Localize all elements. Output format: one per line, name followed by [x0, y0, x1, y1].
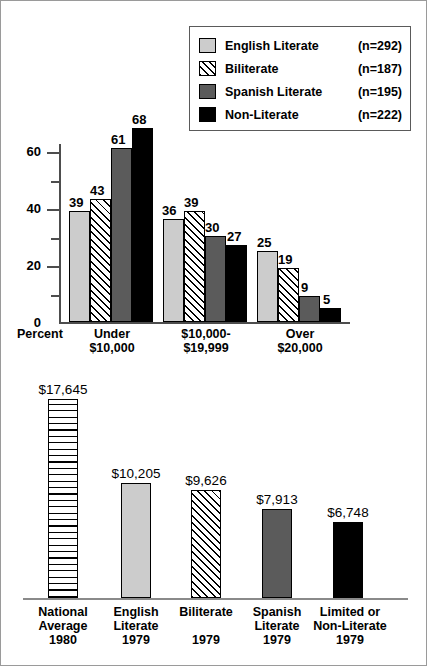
x-category-10000-19999: $10,000- $19,999	[164, 327, 248, 355]
x-category-limited-non-literate: Limited or Non-Literate 1979	[304, 605, 396, 647]
bar-over20k-spanish-literate	[299, 296, 320, 322]
bar-under10k-biliterate	[90, 199, 111, 322]
bar-value: 19	[278, 252, 292, 267]
bar-value: 36	[162, 203, 176, 218]
x-category-national-average: National Average 1980	[23, 605, 103, 647]
bar-over20k-biliterate	[278, 268, 299, 322]
bar-10k19999-biliterate	[184, 211, 205, 322]
top-plot-area: 39 43 61 68 36 39 30 27 25 19 9	[1, 1, 427, 341]
bar-value: $6,748	[308, 505, 388, 520]
bar-value: 39	[69, 195, 83, 210]
bar-10k19999-english-literate	[163, 219, 184, 322]
bar-10k19999-non-literate	[226, 245, 247, 322]
bar-value: 39	[184, 195, 198, 210]
x-category-under-10000: Under $10,000	[71, 327, 153, 355]
y-axis-title: Percent	[17, 327, 63, 341]
bar-value: 61	[111, 132, 125, 147]
bar-over20k-non-literate	[320, 308, 341, 322]
bar-value: 27	[227, 229, 241, 244]
bottom-baseline	[23, 598, 408, 600]
bar-value: 25	[257, 235, 271, 250]
x-category-biliterate: Biliterate 1979	[166, 605, 246, 647]
bar-value: $7,913	[237, 492, 317, 507]
bar-value: 5	[323, 292, 330, 307]
bar-under10k-spanish-literate	[111, 148, 132, 322]
bar-value: 9	[301, 280, 308, 295]
bar-value: 43	[90, 183, 104, 198]
bar-english-literate-1979	[121, 483, 151, 598]
bar-spanish-literate-1979	[262, 509, 292, 598]
bar-value: 68	[132, 112, 146, 127]
bar-value: $17,645	[23, 382, 103, 397]
bar-value: $10,205	[96, 466, 176, 481]
x-category-over-20000: Over $20,000	[258, 327, 342, 355]
chart-figure: English Literate (n=292) Biliterate (n=1…	[0, 0, 427, 666]
bar-value: $9,626	[166, 473, 246, 488]
bar-biliterate-1979	[191, 490, 221, 598]
bar-value: 30	[205, 220, 219, 235]
bar-10k19999-spanish-literate	[205, 236, 226, 322]
bar-limited-non-literate-1979	[333, 522, 363, 598]
bar-over20k-english-literate	[257, 251, 278, 322]
bar-under10k-english-literate	[69, 211, 90, 322]
bar-under10k-non-literate	[132, 128, 153, 322]
bar-national-average-1980	[48, 399, 78, 598]
x-category-english-literate: English Literate 1979	[96, 605, 176, 647]
